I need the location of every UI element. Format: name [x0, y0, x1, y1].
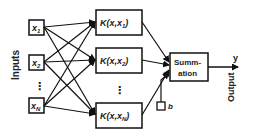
svg-text:b: b — [168, 102, 173, 111]
input-node-xN: xN — [29, 98, 44, 113]
input-node-x1: x1 — [29, 20, 44, 35]
bias-node: b — [157, 102, 173, 111]
input-node-x2: x2 — [29, 55, 44, 70]
kernel-summation-connections — [142, 22, 169, 115]
kernel-ellipsis: ⋮ — [114, 84, 125, 96]
kernel-node-2: K(x,x2) — [96, 48, 142, 73]
svg-text:ation: ation — [178, 69, 197, 78]
summation-node: Summ- ation — [170, 53, 208, 81]
kernel-node-1: K(x,x1) — [96, 10, 142, 35]
inputs-label: Inputs — [10, 50, 21, 80]
svg-text:Summ-: Summ- — [174, 58, 201, 67]
kernel-network-diagram: Inputs x1 x2 ⋮ xN K(x,x1) K(x,x2) ⋮ K(x,… — [0, 0, 256, 136]
input-kernel-connections — [44, 22, 95, 114]
kernel-node-N: K(x,xN) — [96, 103, 142, 128]
output-label: Output — [226, 73, 236, 103]
input-ellipsis: ⋮ — [34, 80, 45, 92]
output-symbol: y — [233, 53, 238, 63]
